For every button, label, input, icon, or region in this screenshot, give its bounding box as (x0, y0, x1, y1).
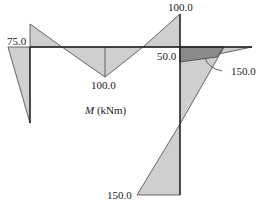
label-left-top: 75.0 (7, 36, 26, 47)
title-units: (kNm) (97, 104, 126, 116)
label-column-bottom: 150.0 (107, 190, 132, 201)
diagram-title: M (kNm) (85, 105, 126, 116)
label-joint-right: 50.0 (157, 51, 176, 62)
label-beam-mid: 100.0 (91, 80, 116, 91)
right-column-lower-area (137, 124, 180, 195)
beam-right-hogging-area (143, 14, 180, 47)
beam-left-hogging-area (30, 24, 62, 47)
beam-sagging-area (62, 47, 143, 77)
label-top-right: 100.0 (168, 2, 193, 13)
label-callout: 150.0 (231, 66, 256, 77)
title-symbol: M (85, 104, 94, 116)
bending-moment-diagram (0, 0, 256, 208)
left-column-moment-area (8, 47, 30, 123)
